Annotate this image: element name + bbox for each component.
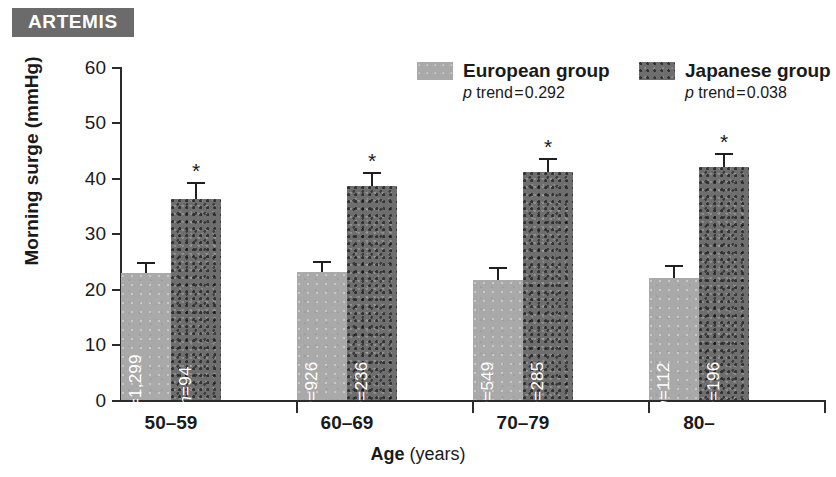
errorbar-cap: [137, 262, 155, 264]
x-axis-title-rest: (years): [405, 444, 466, 464]
y-tick-label-0: 0: [58, 391, 106, 410]
y-tick-0: [112, 400, 121, 402]
errorbar-european-70-79: [497, 269, 499, 280]
bar-european-60-69[interactable]: n=926: [297, 272, 347, 400]
significance-star-50-59: *: [192, 160, 200, 181]
y-tick-label-30: 30: [58, 224, 106, 243]
y-tick-40: [112, 178, 121, 180]
errorbar-cap: [313, 261, 331, 263]
errorbar-cap: [665, 265, 683, 267]
x-group-label-70-79: 70–79: [453, 412, 593, 434]
errorbar-european-50-59: [145, 264, 147, 273]
plot-area: n=1,299 n=94 * n=926 n=236 * n=549 n=285: [121, 68, 826, 400]
x-group-label-80-plus: 80–: [629, 412, 769, 434]
bar-n-label: n=196: [704, 362, 724, 411]
errorbar-european-80-plus: [673, 267, 675, 278]
errorbar-japanese-80-plus: [723, 155, 725, 167]
y-tick-20: [112, 289, 121, 291]
bar-japanese-60-69[interactable]: n=236: [347, 186, 397, 400]
bar-n-label: n=549: [478, 362, 498, 411]
x-tick-4: [824, 402, 826, 413]
errorbar-japanese-50-59: [195, 184, 197, 199]
bar-japanese-70-79[interactable]: n=285: [523, 172, 573, 400]
y-tick-label-60: 60: [58, 58, 106, 77]
bar-european-50-59[interactable]: n=1,299: [121, 273, 171, 400]
bar-european-80-plus[interactable]: n=112: [649, 278, 699, 400]
significance-star-70-79: *: [544, 136, 552, 157]
bar-n-label: n=236: [352, 362, 372, 411]
y-tick-60: [112, 67, 121, 69]
figure-artemis-morning-surge: ARTEMIS European group p p trend = 0.292…: [0, 0, 836, 477]
bar-n-label: n=285: [528, 362, 548, 411]
y-tick-50: [112, 122, 121, 124]
bar-n-label: n=112: [654, 362, 674, 410]
errorbar-cap: [539, 158, 557, 160]
errorbar-japanese-60-69: [371, 174, 373, 186]
errorbar-cap: [363, 172, 381, 174]
y-axis-title: Morning surge (mmHg): [21, 11, 43, 311]
errorbar-cap: [715, 153, 733, 155]
errorbar-european-60-69: [321, 263, 323, 272]
x-axis-title-strong: Age: [370, 444, 404, 464]
y-tick-10: [112, 344, 121, 346]
errorbar-cap: [489, 267, 507, 269]
bar-japanese-80-plus[interactable]: n=196: [699, 167, 749, 400]
errorbar-japanese-70-79: [547, 160, 549, 172]
x-group-label-60-69: 60–69: [277, 412, 417, 434]
bar-n-label: n=1,299: [126, 354, 146, 417]
x-axis-title: Age (years): [0, 444, 836, 465]
significance-star-80-plus: *: [720, 131, 728, 152]
bar-n-label: n=926: [302, 362, 322, 411]
x-group-label-50-59: 50–59: [101, 412, 241, 434]
y-tick-label-20: 20: [58, 280, 106, 299]
bar-japanese-50-59[interactable]: n=94: [171, 199, 221, 400]
significance-star-60-69: *: [368, 150, 376, 171]
errorbar-cap: [187, 182, 205, 184]
bar-n-label: n=94: [176, 366, 196, 405]
y-tick-label-40: 40: [58, 169, 106, 188]
y-tick-30: [112, 233, 121, 235]
y-tick-label-10: 10: [58, 335, 106, 354]
bar-european-70-79[interactable]: n=549: [473, 280, 523, 400]
y-tick-label-50: 50: [58, 113, 106, 132]
